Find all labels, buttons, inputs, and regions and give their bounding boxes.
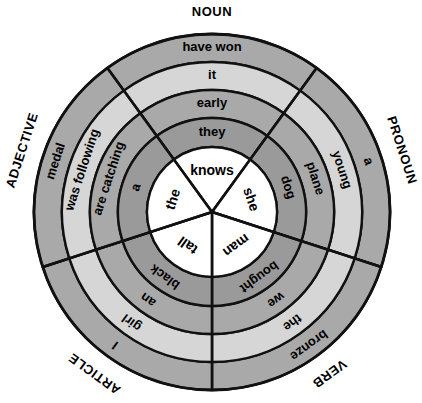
ring-word: have won xyxy=(182,39,241,54)
ring-word: early xyxy=(197,95,228,110)
part-of-speech-label: NOUN xyxy=(192,4,233,19)
inner-word: knows xyxy=(190,162,234,178)
ring-word: they xyxy=(199,124,227,139)
grammar-wheel-figure: have wonitearlytheyknowsayoungplanedogsh… xyxy=(0,0,422,403)
ring-word: it xyxy=(208,67,217,82)
wheel-canvas: have wonitearlytheyknowsayoungplanedogsh… xyxy=(0,0,422,403)
part-of-speech-label: PRONOUN xyxy=(384,114,420,186)
part-of-speech-label: ADJECTIVE xyxy=(2,111,40,190)
part-of-speech-label: VERB xyxy=(310,356,350,391)
